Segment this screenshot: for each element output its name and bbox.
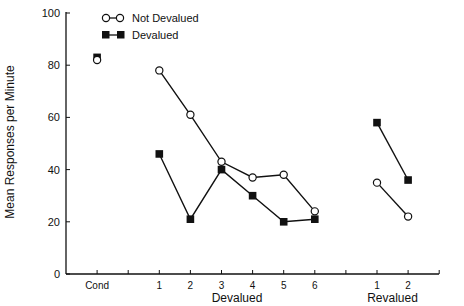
- filled-square-marker: [187, 215, 195, 223]
- x-tick-label: 5: [281, 280, 287, 291]
- x-tick-label: 2: [188, 280, 194, 291]
- legend-label: Devalued: [132, 29, 178, 41]
- series-not-devalued: [159, 70, 408, 216]
- legend: Not Devalued Devalued: [102, 12, 199, 41]
- series-line: [159, 154, 314, 222]
- filled-square-icon: [102, 31, 110, 39]
- y-tick-label: 0: [54, 268, 60, 280]
- y-axis-label: Mean Responses per Minute: [3, 65, 17, 219]
- filled-square-icon: [117, 31, 125, 39]
- filled-square-marker: [373, 119, 381, 127]
- x-axis: Cond12345612DevaluedRevalued: [66, 270, 439, 305]
- open-circle-marker: [94, 56, 101, 63]
- x-tick-label: 1: [157, 280, 163, 291]
- filled-square-marker: [249, 192, 257, 200]
- open-circle-marker: [187, 111, 194, 118]
- chart-container: 020406080100 Cond12345612DevaluedRevalue…: [0, 0, 464, 306]
- x-group-label: Devalued: [212, 291, 263, 305]
- open-circle-marker: [311, 208, 318, 215]
- series-line: [159, 70, 314, 211]
- legend-item-devalued: Devalued: [102, 29, 178, 41]
- y-tick-label: 60: [48, 111, 60, 123]
- open-circle-marker: [156, 67, 163, 74]
- open-circle-marker: [405, 213, 412, 220]
- filled-square-marker: [311, 215, 319, 223]
- y-axis: 020406080100: [42, 7, 70, 280]
- series-line: [377, 183, 408, 217]
- x-group-label: Revalued: [367, 291, 418, 305]
- open-circle-marker: [218, 158, 225, 165]
- y-tick-label: 40: [48, 164, 60, 176]
- y-tick-label: 100: [42, 7, 60, 19]
- line-chart: 020406080100 Cond12345612DevaluedRevalue…: [0, 0, 464, 306]
- filled-square-marker: [156, 150, 164, 158]
- open-circle-marker: [249, 174, 256, 181]
- open-circle-icon: [116, 14, 123, 21]
- open-circle-marker: [373, 179, 380, 186]
- filled-square-marker: [218, 166, 226, 174]
- markers-devalued: [93, 54, 412, 226]
- series-line: [377, 123, 408, 180]
- open-circle-marker: [280, 171, 287, 178]
- legend-item-not-devalued: Not Devalued: [102, 12, 198, 24]
- filled-square-marker: [404, 176, 412, 184]
- x-tick-label: 1: [374, 280, 380, 291]
- x-tick-label: 4: [250, 280, 256, 291]
- x-tick-label: 2: [405, 280, 411, 291]
- y-tick-label: 80: [48, 59, 60, 71]
- open-circle-icon: [102, 14, 109, 21]
- x-tick-label: 6: [312, 280, 318, 291]
- legend-label: Not Devalued: [132, 12, 199, 24]
- series-layer: [93, 54, 412, 226]
- x-tick-label: 3: [219, 280, 225, 291]
- x-tick-label: Cond: [85, 280, 109, 291]
- y-tick-label: 20: [48, 216, 60, 228]
- filled-square-marker: [280, 218, 288, 226]
